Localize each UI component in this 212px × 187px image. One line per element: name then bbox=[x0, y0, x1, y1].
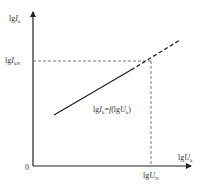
origin-label: 0 bbox=[25, 163, 29, 172]
curve-dashed-segment bbox=[131, 40, 180, 70]
x-marker-label: lgUN bbox=[143, 171, 159, 181]
diagram-canvas: lgIk lgIkN 0 lgIk=f(lgUk) lgUk lgUN bbox=[0, 0, 212, 187]
curve-equation-label: lgIk=f(lgUk) bbox=[93, 105, 131, 115]
y-axis-label: lgIk bbox=[9, 14, 21, 24]
y-marker-label: lgIkN bbox=[5, 56, 20, 66]
x-axis-label: lgUk bbox=[178, 153, 193, 163]
